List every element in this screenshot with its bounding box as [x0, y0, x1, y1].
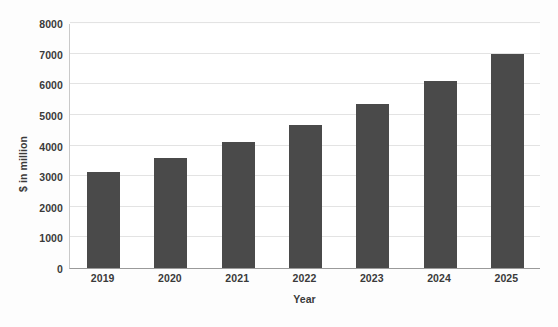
y-axis-tick-label: 2000: [9, 202, 63, 214]
y-axis-tick-label: 1000: [9, 232, 63, 244]
bar: [87, 172, 120, 268]
y-axis-tick-label: 5000: [9, 110, 63, 122]
y-axis-tick-label: 6000: [9, 79, 63, 91]
plot-area: [69, 24, 540, 269]
y-axis-tick-label: 8000: [9, 18, 63, 30]
gridline: [70, 22, 540, 23]
gridline: [70, 53, 540, 54]
y-axis-tick-label: 7000: [9, 49, 63, 61]
y-axis-tick-labels: 010002000300040005000600070008000: [6, 24, 63, 269]
y-axis-tick-label: 0: [9, 263, 63, 275]
x-axis-tick-label: 2025: [494, 272, 518, 284]
x-axis-tick-label: 2021: [225, 272, 249, 284]
bar: [491, 54, 524, 268]
x-axis-tick-label: 2019: [91, 272, 115, 284]
bar: [154, 158, 187, 268]
bar: [424, 81, 457, 268]
bar-chart: $ in million 010002000300040005000600070…: [0, 0, 558, 327]
x-axis-tick-labels: 2019202020212022202320242025: [69, 272, 540, 288]
x-axis-tick-label: 2024: [427, 272, 451, 284]
y-axis-tick-label: 3000: [9, 171, 63, 183]
x-axis-tick-label: 2020: [158, 272, 182, 284]
bar: [356, 104, 389, 268]
gridline: [70, 114, 540, 115]
y-axis-tick-label: 4000: [9, 141, 63, 153]
bar: [289, 125, 322, 268]
gridline: [70, 83, 540, 84]
x-axis-title: Year: [69, 293, 540, 305]
bar: [222, 142, 255, 268]
x-axis-tick-label: 2022: [293, 272, 317, 284]
x-axis-tick-label: 2023: [360, 272, 384, 284]
